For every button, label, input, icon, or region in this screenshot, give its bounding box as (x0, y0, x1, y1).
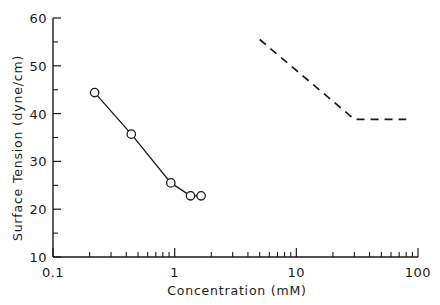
y-axis-title: Surface Tension (dyne/cm) (10, 55, 25, 241)
data-point-marker (197, 192, 205, 200)
series-measured (95, 93, 201, 196)
x-tick-label-100: 100 (405, 265, 431, 280)
x-axis-title-text: Concentration (mM) (167, 283, 307, 298)
y-tick-label-30: 30 (29, 154, 47, 169)
y-tick-label-60: 60 (29, 11, 47, 26)
series-reference-dashed (260, 40, 407, 120)
y-tick-label-20: 20 (29, 202, 47, 217)
data-point-marker (127, 130, 135, 138)
series-measured-markers (90, 88, 205, 200)
data-point-marker (90, 88, 98, 96)
chart-canvas: Surface Tension (dyne/cm) Concentration … (0, 0, 440, 305)
x-axis-tick-labels: 0.1 1 10 100 (42, 265, 431, 280)
x-tick-label-1: 1 (170, 265, 179, 280)
y-tick-label-50: 50 (29, 59, 47, 74)
data-point-marker (186, 192, 194, 200)
x-axis-ticks (53, 248, 418, 257)
y-tick-label-10: 10 (29, 250, 47, 265)
y-tick-label-40: 40 (29, 107, 47, 122)
y-axis-ticks: 60 50 40 30 20 10 (29, 11, 61, 265)
x-tick-label-0.1: 0.1 (42, 265, 64, 280)
axis-lines (53, 18, 418, 257)
data-point-marker (167, 179, 175, 187)
y-axis-title-text: Surface Tension (dyne/cm) (10, 55, 25, 241)
chart-figure: Surface Tension (dyne/cm) Concentration … (0, 0, 440, 305)
x-tick-label-10: 10 (288, 265, 306, 280)
